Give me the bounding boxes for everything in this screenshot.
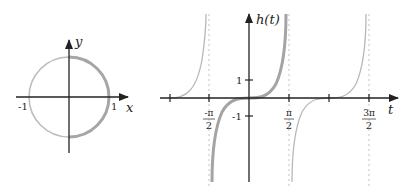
svg-text:2: 2 bbox=[286, 120, 292, 131]
svg-text:3π: 3π bbox=[363, 108, 375, 118]
y-tick-label-one: 1 bbox=[236, 75, 242, 86]
x-tick-label-half-pi: π 2 bbox=[284, 108, 294, 131]
function-plot-panel: h(t) t 1 -1 -π 2 π 2 3π 2 bbox=[160, 12, 398, 186]
unit-circle-panel: y x -1 1 bbox=[16, 34, 134, 153]
h-axis-label: h(t) bbox=[256, 12, 280, 27]
y-tick-label-neg-one: -1 bbox=[232, 111, 242, 122]
x-tick-label-neg-half-pi: -π 2 bbox=[203, 108, 215, 131]
svg-text:2: 2 bbox=[206, 120, 212, 131]
curve-left-branch bbox=[170, 14, 206, 98]
tick-label-neg-one: -1 bbox=[18, 101, 28, 112]
svg-text:2: 2 bbox=[366, 120, 372, 131]
x-axis-label: x bbox=[126, 100, 134, 115]
tick-label-one: 1 bbox=[111, 101, 117, 112]
x-tick-label-three-half-pi: 3π 2 bbox=[362, 108, 376, 131]
svg-text:π: π bbox=[286, 108, 292, 118]
t-axis-label: t bbox=[388, 102, 394, 117]
figure: y x -1 1 h(t) t 1 -1 -π 2 bbox=[0, 0, 408, 193]
y-axis-label: y bbox=[74, 34, 83, 49]
svg-text:-π: -π bbox=[205, 108, 214, 118]
